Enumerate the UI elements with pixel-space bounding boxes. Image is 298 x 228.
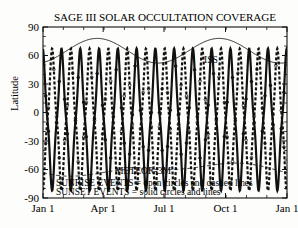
- meteor-3m-label: METEOR-3M: [115, 165, 171, 176]
- x-tick-label: Jan 1: [32, 202, 55, 214]
- sunset-event-marker: [96, 72, 99, 75]
- sunset-event-marker: [109, 157, 112, 160]
- sunset-event-marker: [253, 121, 256, 124]
- sunset-event-marker: [77, 76, 80, 79]
- sunset-event-marker: [269, 84, 272, 87]
- sunset-event-marker: [134, 65, 137, 68]
- sunset-event-marker: [231, 76, 234, 79]
- sunset-event-marker: [188, 106, 191, 109]
- y-tick-label: 0: [34, 106, 40, 118]
- sunset-event-marker: [131, 113, 134, 116]
- y-tick-label: -30: [24, 135, 39, 147]
- sunset-event-marker: [264, 94, 267, 97]
- sunset-event-marker: [174, 65, 177, 68]
- sunset-event-marker: [128, 153, 131, 156]
- sunset-event-marker: [226, 101, 229, 104]
- sunset-event-marker: [161, 149, 164, 152]
- sunset-event-marker: [166, 145, 169, 148]
- sunset-event-marker: [199, 157, 202, 160]
- sunset-event-marker: [158, 111, 161, 114]
- sunset-event-marker: [280, 127, 283, 130]
- y-tick-label: 60: [28, 49, 40, 61]
- sunset-event-marker: [66, 133, 69, 136]
- sunset-event-marker: [245, 98, 248, 101]
- sunset-event-marker: [47, 130, 50, 133]
- sunset-event-marker: [272, 123, 275, 126]
- y-tick-label: 90: [28, 21, 40, 33]
- x-tick-label: Jul 1: [153, 202, 174, 214]
- sunset-event-marker: [142, 145, 145, 148]
- sunset-event-marker: [150, 111, 153, 114]
- sunset-event-marker: [55, 121, 58, 124]
- y-axis-tick-labels: 9060300-30-60-90: [24, 21, 39, 204]
- legend-sunset: SUNSET EVENTS = solid circles and lines: [56, 187, 221, 197]
- y-tick-label: 30: [28, 78, 40, 90]
- sunset-event-marker: [139, 109, 142, 112]
- sunset-event-marker: [223, 135, 226, 138]
- sunset-event-marker: [196, 115, 199, 118]
- plot-area: 9060300-30-60-90 Jan 1Apr 1Jul 1Oct 1Jan…: [0, 0, 298, 228]
- sunset-event-marker: [180, 153, 183, 156]
- sunset-event-marker: [147, 149, 150, 152]
- chart-figure: SAGE III SOLAR OCCULTATION COVERAGE Lati…: [0, 0, 298, 228]
- sunset-event-marker: [44, 95, 47, 98]
- sunset-event-marker: [177, 113, 180, 116]
- x-axis-tick-labels: Jan 1Apr 1Jul 1Oct 1Jan 1: [32, 202, 298, 214]
- x-tick-label: Jan 1: [276, 202, 298, 214]
- sunset-event-marker: [115, 68, 118, 71]
- sunset-event-marker: [123, 142, 126, 145]
- iss-label: ISS: [204, 54, 218, 65]
- sunset-event-marker: [250, 80, 253, 83]
- sunset-event-marker: [104, 139, 107, 142]
- sunset-event-marker: [101, 104, 104, 107]
- sunset-event-marker: [185, 142, 188, 145]
- sunset-event-marker: [120, 107, 123, 110]
- sunset-event-marker: [193, 68, 196, 71]
- y-tick-label: -60: [24, 163, 39, 175]
- sunset-event-marker: [261, 130, 264, 133]
- sunset-event-marker: [212, 72, 215, 75]
- sunset-event-marker: [242, 132, 245, 135]
- sunset-event-marker: [204, 138, 207, 141]
- sunset-event-marker: [63, 98, 66, 101]
- sunset-event-marker: [82, 101, 85, 104]
- sunset-event-marker: [169, 109, 172, 112]
- x-tick-label: Apr 1: [90, 202, 115, 214]
- sunset-event-marker: [207, 104, 210, 107]
- sunset-event-marker: [283, 91, 286, 94]
- x-tick-label: Oct 1: [213, 202, 237, 214]
- sunset-event-marker: [58, 80, 61, 83]
- sunset-event-marker: [112, 115, 115, 118]
- sunset-event-marker: [85, 135, 88, 138]
